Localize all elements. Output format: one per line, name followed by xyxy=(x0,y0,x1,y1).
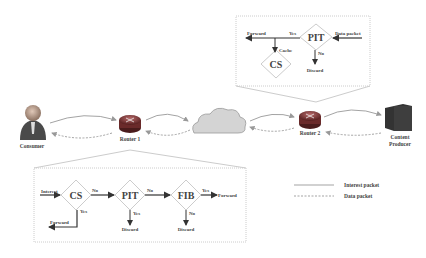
top-forward-label: Forward xyxy=(247,31,266,36)
bottom-cs-label: CS xyxy=(70,190,83,201)
bottom-yes-fib-label: Yes xyxy=(202,188,209,193)
bottom-pit-label: PIT xyxy=(122,190,139,201)
top-no-label: No xyxy=(318,51,325,56)
top-cs-label: CS xyxy=(270,59,283,70)
producer-label-1: Content xyxy=(391,134,410,140)
router2-icon xyxy=(299,111,321,129)
top-yes-label: Yes xyxy=(289,31,296,36)
bottom-interest-label: Interest xyxy=(41,189,58,194)
server-icon xyxy=(385,104,412,131)
top-discard-label: Discard xyxy=(307,68,324,73)
router1-label: Router 1 xyxy=(120,136,141,142)
bottom-yes-cs-label: Yes xyxy=(80,209,87,214)
bottom-forward-right-label: Forward xyxy=(218,193,237,198)
top-data-packet-label: Data packet xyxy=(335,31,361,36)
top-cache-label: Cache xyxy=(279,48,293,53)
top-pit-label: PIT xyxy=(308,32,325,43)
legend-interest-label: Interest packet xyxy=(344,182,379,188)
cloud-icon xyxy=(193,108,246,133)
bottom-no2-label: No xyxy=(147,188,154,193)
bottom-forward-left-label: Forward xyxy=(50,220,69,225)
consumer-label: Consumer xyxy=(20,143,45,149)
router2-detail-box xyxy=(236,16,370,102)
bottom-fib-label: FIB xyxy=(178,190,195,201)
legend-data-label: Data packet xyxy=(344,193,372,199)
router1-detail-box xyxy=(34,150,246,242)
router2-label: Router 2 xyxy=(300,130,321,136)
router1-icon xyxy=(119,115,141,133)
bottom-discard-fib-label: Discard xyxy=(178,227,195,232)
consumer-icon xyxy=(20,105,46,140)
bottom-no1-label: No xyxy=(92,188,99,193)
bottom-yes-pit-label: Yes xyxy=(133,211,140,216)
legend xyxy=(294,185,334,196)
bottom-discard-pit-label: Discard xyxy=(122,227,139,232)
producer-label-2: Producer xyxy=(389,141,411,147)
bottom-no-fib-label: No xyxy=(189,211,196,216)
